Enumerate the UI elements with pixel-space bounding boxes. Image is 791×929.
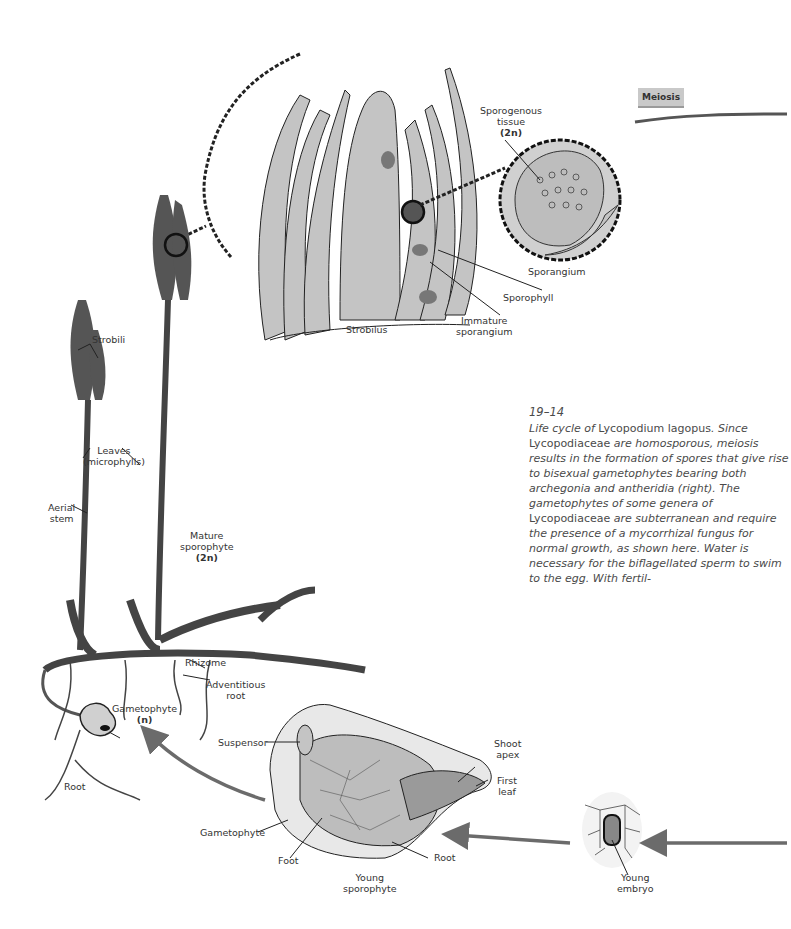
label-immature-sporangium: Immature sporangium (456, 315, 513, 337)
meiosis-banner: Meiosis (638, 88, 684, 108)
label-root-embryo: Root (434, 852, 456, 863)
label-mature-sporophyte: Mature sporophyte (2n) (180, 530, 234, 563)
strobilus-section (259, 68, 477, 340)
figure-number: 19–14 (529, 405, 791, 420)
label-leaves: Leaves (microphylls) (83, 445, 145, 467)
caption-text: Life cycle of Lycopodium lagopus. Since … (529, 422, 789, 585)
label-strobili: Strobili (92, 334, 125, 345)
label-rhizome: Rhizome (185, 657, 226, 668)
sporangium-detail (500, 140, 620, 260)
label-first-leaf: First leaf (497, 775, 517, 797)
label-foot: Foot (278, 855, 298, 866)
figure-caption: 19–14 Life cycle of Lycopodium lagopus. … (529, 405, 791, 586)
label-aerial-stem: Aerial stem (48, 502, 75, 524)
label-sporangium: Sporangium (528, 266, 586, 277)
label-root-mature: Root (64, 781, 86, 792)
cycle-arrow-to-young-sporophyte (455, 835, 570, 843)
label-sporogenous-tissue: Sporogenous tissue (2n) (480, 105, 542, 138)
meiosis-arrow (635, 114, 787, 122)
label-adventitious-root: Adventitious root (206, 679, 265, 701)
label-young-embryo: Young embryo (617, 872, 653, 894)
label-gametophyte: Gametophyte (200, 827, 265, 838)
label-suspensor: Suspensor (218, 737, 268, 748)
label-gametophyte-n: Gametophyte (n) (112, 703, 177, 725)
label-shoot-apex: Shoot apex (494, 738, 521, 760)
label-young-sporophyte: Young sporophyte (343, 872, 397, 894)
young-embryo-cell (582, 792, 642, 875)
label-strobilus: Strobilus (346, 324, 388, 335)
label-sporophyll: Sporophyll (503, 292, 553, 303)
